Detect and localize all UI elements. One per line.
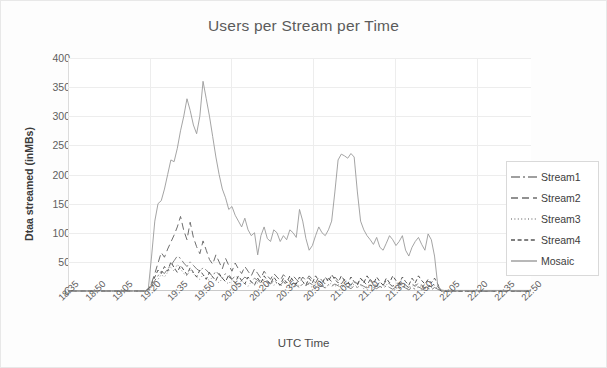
plot-area [68, 58, 531, 291]
legend-swatch-icon [511, 193, 537, 203]
series-line-mosaic [68, 81, 531, 291]
y-axis-tick-label: 150 [30, 198, 70, 210]
legend-item-stream4[interactable]: Stream4 [507, 229, 598, 250]
legend-swatch-icon [511, 256, 537, 266]
legend-swatch-icon [511, 235, 537, 245]
y-axis-tick-label: 50 [30, 256, 70, 268]
legend-label: Stream1 [541, 171, 581, 183]
legend: Stream1Stream2Stream3Stream4Mosaic [506, 161, 599, 276]
legend-label: Stream2 [541, 192, 581, 204]
legend-swatch-icon [511, 214, 537, 224]
chart-title: Users per Stream per Time [1, 17, 606, 35]
legend-item-stream1[interactable]: Stream1 [507, 166, 598, 187]
series-line-stream4 [68, 262, 531, 291]
y-axis-tick-label: 100 [30, 227, 70, 239]
legend-label: Stream3 [541, 213, 581, 225]
y-axis-tick-label: 250 [30, 139, 70, 151]
y-axis-tick-label: 350 [30, 81, 70, 93]
x-axis-title: UTC Time [1, 337, 606, 349]
legend-item-stream2[interactable]: Stream2 [507, 187, 598, 208]
legend-item-stream3[interactable]: Stream3 [507, 208, 598, 229]
legend-swatch-icon [511, 172, 537, 182]
series-lines [68, 58, 531, 291]
legend-label: Stream4 [541, 234, 581, 246]
legend-item-mosaic[interactable]: Mosaic [507, 250, 598, 271]
series-line-stream2 [68, 216, 531, 291]
y-axis-tick-label: 400 [30, 52, 70, 64]
y-axis-tick-label: 200 [30, 169, 70, 181]
y-axis-tick-label: 300 [30, 110, 70, 122]
legend-label: Mosaic [541, 255, 574, 267]
chart-container: Users per Stream per Time Dtaa streamed … [0, 0, 607, 368]
